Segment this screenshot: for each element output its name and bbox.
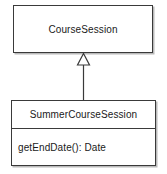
class-name-compartment: CourseSession <box>14 6 152 52</box>
class-operations-compartment: getEndDate(): Date <box>12 128 155 165</box>
class-name-compartment: SummerCourseSession <box>12 101 155 128</box>
operation-label: getEndDate(): Date <box>18 142 106 153</box>
class-name-label: SummerCourseSession <box>30 109 138 120</box>
class-box-coursesession[interactable]: CourseSession <box>13 5 153 53</box>
class-box-summercoursesession[interactable]: SummerCourseSession getEndDate(): Date <box>11 100 156 166</box>
class-name-label: CourseSession <box>48 24 117 35</box>
hollow-triangle-arrowhead-icon <box>78 54 90 66</box>
uml-class-diagram: CourseSession SummerCourseSession getEnd… <box>0 0 167 174</box>
